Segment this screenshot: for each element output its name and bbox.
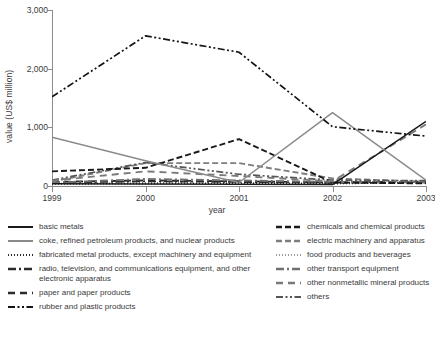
legend-item-label: rubber and plastic products: [39, 302, 136, 312]
legend-item-label: paper and paper products: [39, 288, 131, 298]
legend-line-icon: [276, 222, 301, 232]
line-chart: value (US$ million) 01,0002,0003,000 yea…: [0, 0, 434, 215]
legend-swatch-icon: [276, 278, 301, 287]
x-tick-label: 2002: [323, 193, 342, 203]
legend-line-icon: [8, 264, 33, 274]
plot-area: [52, 10, 426, 186]
y-tick-label: 0: [14, 181, 48, 191]
x-tick-label: 2000: [136, 193, 155, 203]
chart-legend: basic metalscoke, refined petroleum prod…: [0, 222, 434, 332]
legend-item[interactable]: fabricated metal products, except machin…: [8, 250, 276, 260]
legend-item[interactable]: radio, television, and communications eq…: [8, 264, 276, 274]
y-tick-mark: [47, 10, 52, 11]
legend-item[interactable]: rubber and plastic products: [8, 302, 276, 312]
series-line: [52, 163, 426, 181]
x-tick-mark: [333, 187, 334, 192]
legend-item-label: other nonmetallic mineral products: [307, 278, 429, 288]
legend-line-icon: [276, 250, 301, 260]
x-tick-mark: [52, 187, 53, 192]
series-line: [52, 124, 426, 181]
legend-item-label: basic metals: [39, 222, 83, 232]
legend-item-label: others: [307, 292, 329, 302]
legend-swatch-icon: [8, 236, 33, 245]
legend-line-icon: [8, 236, 33, 246]
y-tick-mark: [47, 127, 52, 128]
legend-line-icon: [8, 222, 33, 232]
legend-swatch-icon: [8, 302, 33, 311]
y-tick-label: 1,000: [14, 122, 48, 132]
y-tick-label: 3,000: [14, 5, 48, 15]
y-axis-ticks: 01,0002,0003,000: [12, 0, 48, 215]
legend-item[interactable]: electric machinery and apparatus: [276, 236, 434, 246]
legend-item[interactable]: coke, refined petroleum products, and nu…: [8, 236, 276, 246]
x-tick-mark: [426, 187, 427, 192]
legend-swatch-icon: [276, 264, 301, 273]
y-tick-label: 2,000: [14, 64, 48, 74]
series-lines: [52, 10, 426, 186]
legend-item-label: coke, refined petroleum products, and nu…: [39, 236, 235, 246]
x-tick-label: 2001: [230, 193, 249, 203]
legend-item[interactable]: chemicals and chemical products: [276, 222, 434, 232]
x-tick-label: 1999: [43, 193, 62, 203]
legend-swatch-icon: [8, 222, 33, 231]
x-tick-mark: [146, 187, 147, 192]
legend-line-icon: [276, 278, 301, 288]
legend-item-label-continued: electronic apparatus: [8, 274, 276, 284]
series-line: [52, 113, 426, 183]
legend-item[interactable]: food products and beverages: [276, 250, 434, 260]
legend-column-left: basic metalscoke, refined petroleum prod…: [8, 222, 276, 316]
legend-swatch-icon: [276, 236, 301, 245]
legend-item-label: fabricated metal products, except machin…: [39, 250, 251, 260]
legend-item[interactable]: paper and paper products: [8, 288, 276, 298]
x-tick-mark: [239, 187, 240, 192]
legend-item-label: electric machinery and apparatus: [307, 236, 425, 246]
legend-line-icon: [276, 264, 301, 274]
legend-item[interactable]: other nonmetallic mineral products: [276, 278, 434, 288]
legend-item[interactable]: others: [276, 292, 434, 302]
y-tick-mark: [47, 69, 52, 70]
legend-swatch-icon: [276, 292, 301, 301]
legend-column-right: chemicals and chemical productselectric …: [276, 222, 434, 306]
legend-swatch-icon: [8, 250, 33, 259]
legend-item[interactable]: other transport equipment: [276, 264, 434, 274]
legend-line-icon: [8, 250, 33, 260]
legend-item-label: chemicals and chemical products: [307, 222, 425, 232]
legend-item-label: food products and beverages: [307, 250, 411, 260]
legend-line-icon: [8, 302, 33, 312]
legend-item[interactable]: basic metals: [8, 222, 276, 232]
legend-line-icon: [8, 288, 33, 298]
series-line: [52, 163, 426, 182]
legend-swatch-icon: [8, 264, 33, 273]
legend-swatch-icon: [276, 222, 301, 231]
legend-item-label: radio, television, and communications eq…: [39, 264, 250, 274]
series-line: [52, 139, 426, 183]
x-tick-label: 2003: [417, 193, 435, 203]
legend-swatch-icon: [8, 288, 33, 297]
x-axis-label: year: [0, 205, 434, 215]
legend-line-icon: [276, 236, 301, 246]
legend-swatch-icon: [276, 250, 301, 259]
series-line: [52, 36, 426, 136]
legend-item-label: other transport equipment: [307, 264, 399, 274]
legend-line-icon: [276, 292, 301, 302]
